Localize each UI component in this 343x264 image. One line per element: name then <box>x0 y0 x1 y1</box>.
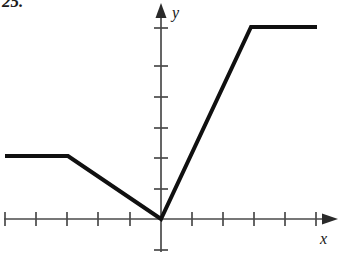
x-axis-arrow-icon <box>322 214 338 225</box>
figure-container: 25. <box>0 0 343 264</box>
y-axis-arrow-icon <box>156 3 167 18</box>
x-axis-label: x <box>320 231 327 247</box>
graph-plot <box>0 0 343 264</box>
y-axis-label: y <box>172 5 179 21</box>
